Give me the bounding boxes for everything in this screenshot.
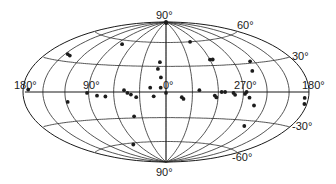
data-point bbox=[156, 67, 160, 71]
data-point bbox=[164, 91, 168, 95]
data-point bbox=[152, 94, 156, 98]
data-point bbox=[248, 96, 252, 100]
data-point bbox=[198, 88, 202, 92]
data-point bbox=[131, 143, 135, 147]
data-point bbox=[95, 94, 99, 98]
lon-270-label: 270° bbox=[234, 79, 257, 91]
lon-0-label: 0° bbox=[163, 79, 174, 91]
lat-30-label: 30° bbox=[292, 50, 309, 62]
all-sky-map: 90° 90° 180° 90° 0° 270° 180° 60° 30° -3… bbox=[0, 0, 336, 184]
lon-180-left-label: 180° bbox=[14, 79, 37, 91]
data-point bbox=[188, 40, 192, 44]
data-point bbox=[250, 69, 254, 73]
data-point bbox=[303, 96, 307, 100]
data-point bbox=[134, 95, 138, 99]
lat-60-label: 60° bbox=[237, 19, 254, 31]
data-point bbox=[148, 86, 152, 90]
data-point bbox=[85, 91, 89, 95]
data-point bbox=[126, 91, 130, 95]
data-point bbox=[122, 88, 126, 92]
data-point bbox=[164, 21, 168, 25]
data-point bbox=[182, 97, 186, 101]
lat-minus-30-label: -30° bbox=[292, 120, 312, 132]
north-pole-label: 90° bbox=[156, 9, 173, 21]
data-point bbox=[303, 102, 307, 106]
data-point bbox=[211, 58, 215, 62]
data-point bbox=[129, 93, 133, 97]
data-point bbox=[104, 95, 108, 99]
data-point bbox=[158, 60, 162, 64]
data-point bbox=[242, 124, 246, 128]
lat-minus-60-label: -60° bbox=[232, 151, 252, 163]
data-point bbox=[252, 104, 256, 108]
data-point bbox=[248, 59, 252, 63]
data-point bbox=[223, 90, 227, 94]
data-point bbox=[120, 42, 124, 46]
lon-90-label: 90° bbox=[83, 79, 100, 91]
south-pole-label: 90° bbox=[156, 166, 173, 178]
data-point bbox=[132, 114, 136, 118]
axis-labels: 90° 90° 180° 90° 0° 270° 180° 60° 30° -3… bbox=[14, 9, 325, 178]
lon-180-right-label: 180° bbox=[302, 79, 325, 91]
data-point bbox=[66, 100, 70, 104]
data-point bbox=[233, 93, 237, 97]
data-point bbox=[220, 90, 224, 94]
data-point bbox=[66, 52, 70, 56]
data-point bbox=[215, 96, 219, 100]
